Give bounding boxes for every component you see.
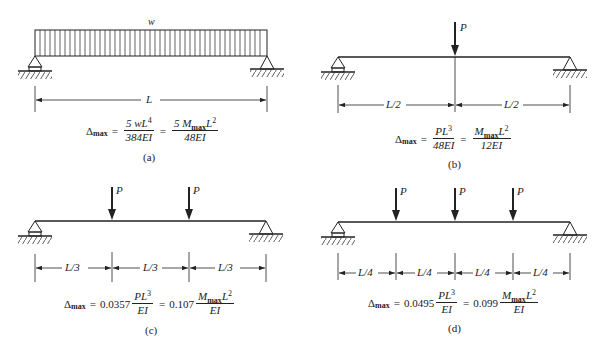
panel-b bbox=[321, 22, 587, 113]
point-load-arrow-icon bbox=[451, 22, 459, 112]
load-label: P bbox=[460, 21, 467, 33]
dimension-label: L/4 bbox=[417, 266, 432, 278]
pin-support-icon bbox=[250, 56, 284, 77]
dimension-label: L/3 bbox=[218, 261, 233, 273]
dimension-label: L/4 bbox=[358, 266, 373, 278]
deflection-formula: Δmax = 5 wL4 384EI = 5 MmaxL2 48EI bbox=[86, 118, 220, 143]
dimension-label: L/4 bbox=[475, 266, 490, 278]
fraction: PL3 48EI bbox=[433, 126, 454, 151]
panel-caption: (b) bbox=[448, 158, 461, 170]
fraction: 5 MmaxL2 48EI bbox=[172, 118, 218, 143]
dimension-label: L/3 bbox=[65, 261, 80, 273]
dimension-label: L/3 bbox=[143, 261, 158, 273]
roller-support-icon bbox=[18, 221, 52, 244]
fraction: MmaxL2 EI bbox=[500, 290, 538, 315]
point-load-arrow-icon bbox=[185, 187, 193, 220]
load-label: P bbox=[116, 184, 123, 196]
panel-caption: (c) bbox=[145, 324, 157, 336]
fraction: PL3 EI bbox=[132, 291, 153, 316]
load-label: P bbox=[459, 185, 466, 197]
pin-support-icon bbox=[553, 57, 587, 78]
point-load-arrow-icon bbox=[509, 188, 517, 221]
roller-support-icon bbox=[18, 56, 52, 79]
load-label: P bbox=[193, 184, 200, 196]
distributed-load bbox=[35, 30, 267, 56]
panel-caption: (a) bbox=[143, 151, 155, 163]
fraction: PL3 EI bbox=[436, 290, 457, 315]
pin-support-icon bbox=[249, 221, 283, 242]
dimension-label: L bbox=[146, 93, 152, 105]
fraction: MmaxL2 12EI bbox=[473, 126, 511, 151]
load-label: P bbox=[517, 185, 524, 197]
dimension-line bbox=[338, 85, 570, 113]
dimension-label: L/2 bbox=[386, 98, 401, 110]
point-load-arrow-icon bbox=[451, 188, 459, 221]
load-label: P bbox=[400, 185, 407, 197]
deflection-formula: Δmax = 0.0495 PL3 EI = 0.099 MmaxL2 EI bbox=[368, 290, 540, 315]
deflection-formula: Δmax = 0.0357 PL3 EI = 0.107 MmaxL2 EI bbox=[64, 291, 236, 316]
dimension-label: L/2 bbox=[504, 98, 519, 110]
roller-support-icon bbox=[321, 222, 355, 245]
point-load-arrow-icon bbox=[108, 187, 116, 220]
fraction: 5 wL4 384EI bbox=[124, 118, 154, 143]
roller-support-icon bbox=[321, 57, 355, 80]
deflection-formula: Δmax = PL3 48EI = MmaxL2 12EI bbox=[395, 126, 513, 151]
panel-caption: (d) bbox=[448, 322, 461, 334]
pin-support-icon bbox=[553, 222, 587, 243]
dimension-label: L/4 bbox=[533, 266, 548, 278]
load-label: w bbox=[148, 16, 155, 27]
fraction: MmaxL2 EI bbox=[196, 291, 234, 316]
point-load-arrow-icon bbox=[392, 188, 400, 221]
